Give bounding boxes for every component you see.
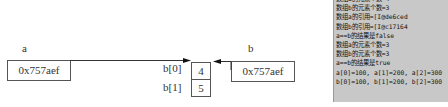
- console-line: a==b的结果是true: [336, 58, 448, 67]
- array-index-label-0: b[0]: [163, 62, 181, 74]
- array-cell-0: 4: [191, 62, 211, 80]
- console-line: 数组b的元素个数=3: [336, 3, 448, 12]
- console-line: 数组a的元素个数=3: [336, 40, 448, 49]
- console-line: 数组a的引用=[I@de6ced: [336, 12, 448, 21]
- console-line: 数组b的引用=[I@c17164: [336, 22, 448, 31]
- arrow-b-to-array: [213, 59, 231, 70]
- array-index-label-1: b[1]: [163, 81, 181, 93]
- console-line: b[0]=100, b[1]=200, b[2]=300: [336, 77, 448, 86]
- console-line: a==b的结果是false: [336, 31, 448, 40]
- array-cell-1: 5: [191, 79, 211, 97]
- console-output-panel: 数组a的元素个数=4 数组b的元素个数=3 数组a的引用=[I@de6ced 数…: [333, 0, 448, 102]
- console-line: a[0]=100, a[1]=200, a[2]=300: [336, 68, 448, 77]
- console-line: 数组b的元素个数=3: [336, 49, 448, 58]
